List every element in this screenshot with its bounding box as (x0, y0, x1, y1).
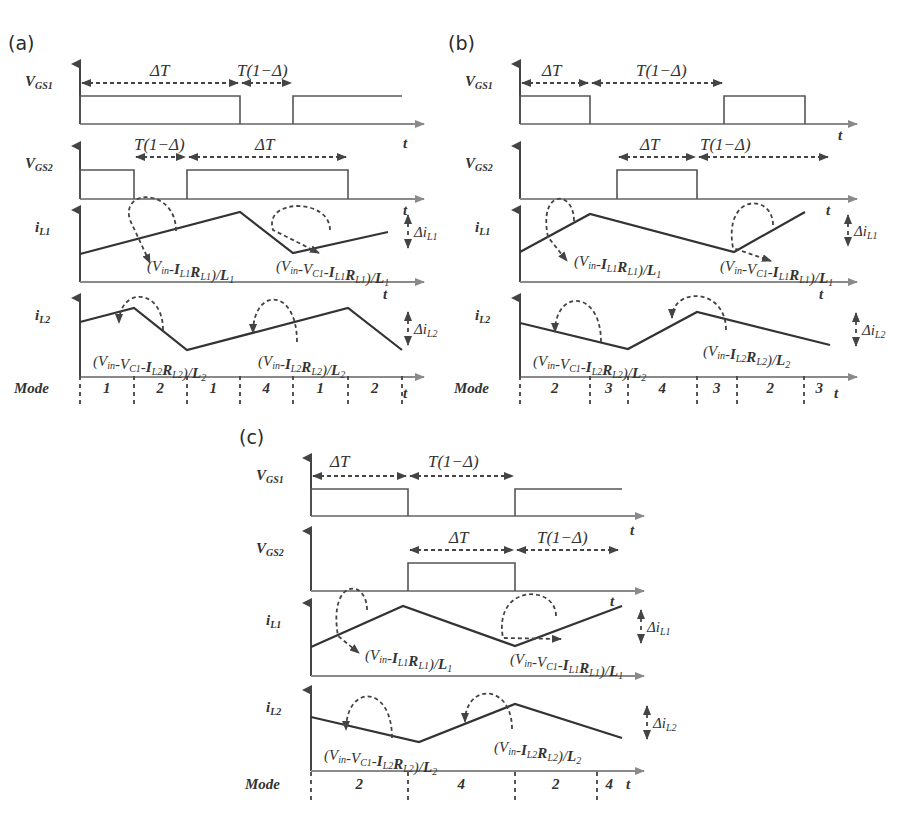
il2-label: iL2 (475, 307, 490, 325)
mode-value: 2 (355, 776, 364, 792)
t-axis-label: t (403, 385, 408, 401)
vgs2-waveform: VGS2ΔTT(1−Δ) (465, 135, 857, 199)
vgs1-waveform: VGS1ΔTT(1−Δ) (25, 61, 424, 124)
ripple-label: ΔiL1 (646, 619, 671, 637)
mode-value: 2 (550, 380, 559, 396)
current-ramp (80, 212, 388, 254)
interval-label: ΔT (329, 452, 351, 471)
t-axis-label: t (630, 522, 635, 538)
vgs1-waveform: VGS1ΔTT(1−Δ) (256, 452, 644, 516)
il2-waveform: iL2ΔiL2(Vin-VC1-IL2RL2)/L2(Vin-IL2RL2)/L… (475, 296, 886, 383)
slope-formula: (Vin-IL1RL1)/L1 (147, 258, 234, 285)
mode-value: 4 (605, 776, 614, 792)
mode-label: Mode (453, 380, 489, 396)
vgs1-label: VGS1 (25, 73, 53, 91)
panel-label: (a) (8, 32, 34, 54)
mode-label: Mode (244, 776, 280, 792)
interval-label: T(1−Δ) (700, 135, 751, 154)
il2-waveform: iL2ΔiL2(Vin-VC1-IL2RL2)/L2(Vin-IL2RL2)/L… (266, 690, 677, 777)
gate-pulse (311, 489, 408, 516)
interval-label: ΔT (149, 61, 171, 80)
mode-value: 3 (604, 380, 613, 396)
t-axis-label: t (626, 776, 631, 792)
panel-label: (c) (239, 426, 264, 448)
interval-label: T(1−Δ) (537, 528, 588, 547)
il2-label: iL2 (266, 699, 281, 717)
interval-label: T(1−Δ) (428, 452, 479, 471)
current-ramp (311, 704, 622, 742)
panel-a: (a)VGS1ΔTT(1−Δ)VGS2T(1−Δ)ΔTiL1ΔiL1(Vin-I… (8, 32, 438, 405)
mode-row: Mode121412 (13, 376, 402, 405)
slope-formula: (Vin-VC1-IL1RL1)/L1 (276, 258, 389, 288)
waveform-figure: (a)VGS1ΔTT(1−Δ)VGS2T(1−Δ)ΔTiL1ΔiL1(Vin-I… (0, 0, 921, 833)
mode-value: 2 (551, 776, 560, 792)
slope-formula: (Vin-IL2RL2)/L2 (703, 343, 790, 370)
panel-label: (b) (448, 32, 475, 54)
gate-pulse (293, 96, 402, 124)
current-ramp (520, 212, 805, 252)
slope-indicator-arrow (253, 300, 297, 342)
gate-pulse (408, 563, 515, 591)
t-axis-label: t (826, 202, 831, 218)
slope-formula: (Vin-IL2RL2)/L2 (494, 739, 581, 766)
il2-label: iL2 (35, 307, 50, 325)
vgs2-label: VGS2 (465, 155, 493, 173)
mode-value: 3 (712, 380, 721, 396)
gate-pulse (187, 170, 348, 199)
interval-label: ΔT (541, 61, 563, 80)
mode-value: 2 (766, 380, 775, 396)
gate-pulse (617, 170, 697, 199)
slope-indicator-arrow (465, 694, 512, 729)
mode-value: 1 (210, 380, 218, 396)
gate-pulse (724, 96, 805, 124)
current-ramp (520, 312, 830, 349)
il1-label: iL1 (35, 219, 50, 237)
slope-formula: (Vin-VC1-IL1RL1)/L1 (720, 258, 833, 288)
mode-value: 4 (457, 776, 466, 792)
mode-value: 4 (262, 380, 271, 396)
slope-formula: (Vin-IL2RL2)/L2 (258, 353, 345, 380)
vgs1-label: VGS1 (256, 467, 284, 485)
il2-waveform: iL2ΔiL2(Vin-VC1-IL2RL2)/L2(Vin-IL2RL2)/L… (35, 297, 438, 383)
mode-value: 4 (658, 380, 667, 396)
mode-label: Mode (13, 380, 49, 396)
current-ramp (80, 308, 402, 350)
interval-label: T(1−Δ) (134, 135, 185, 154)
t-axis-label: t (403, 135, 408, 151)
mode-value: 1 (317, 380, 325, 396)
gate-pulse (80, 170, 134, 199)
slope-formula: (Vin-IL1RL1)/L1 (574, 253, 661, 280)
gate-pulse (515, 489, 622, 516)
vgs2-label: VGS2 (25, 155, 53, 173)
mode-row: Mode2424 (244, 772, 614, 801)
slope-indicator-arrow (346, 696, 392, 738)
il1-label: iL1 (475, 219, 490, 237)
il1-waveform: iL1ΔiL1(Vin-IL1RL1)/L1(Vin-VC1-IL1RL1)/L… (475, 199, 878, 288)
mode-value: 2 (370, 380, 379, 396)
ripple-label: ΔiL1 (853, 223, 878, 241)
vgs1-waveform: VGS1ΔTT(1−Δ) (465, 61, 857, 124)
mode-value: 2 (156, 380, 165, 396)
slope-formula: (Vin-VC1-IL2RL2)/L2 (93, 353, 206, 383)
slope-formula: (Vin-VC1-IL2RL2)/L2 (324, 747, 437, 777)
panel-c: (c)VGS1ΔTT(1−Δ)VGS2ΔTT(1−Δ)iL1ΔiL1(Vin-I… (239, 426, 677, 801)
ripple-label: ΔiL1 (413, 224, 438, 242)
mode-value: 3 (815, 380, 824, 396)
slope-indicator-arrow (336, 589, 367, 653)
interval-label: ΔT (639, 135, 661, 154)
il1-waveform: iL1ΔiL1(Vin-IL1RL1)/L1(Vin-VC1-IL1RL1)/L… (35, 197, 438, 288)
t-axis-label: t (383, 286, 388, 302)
interval-label: T(1−Δ) (237, 61, 288, 80)
panel-b: (b)VGS1ΔTT(1−Δ)VGS2ΔTT(1−Δ)iL1ΔiL1(Vin-I… (448, 32, 886, 405)
ripple-label: ΔiL2 (652, 715, 677, 733)
mode-value: 1 (103, 380, 111, 396)
t-axis-label: t (819, 286, 824, 302)
il1-label: iL1 (266, 612, 281, 630)
gate-pulse (520, 96, 590, 124)
current-ramp (311, 606, 622, 647)
slope-indicator-arrow (732, 203, 773, 261)
gate-pulse (80, 96, 240, 124)
ripple-label: ΔiL2 (861, 322, 886, 340)
vgs1-label: VGS1 (465, 73, 493, 91)
interval-label: ΔT (254, 135, 276, 154)
